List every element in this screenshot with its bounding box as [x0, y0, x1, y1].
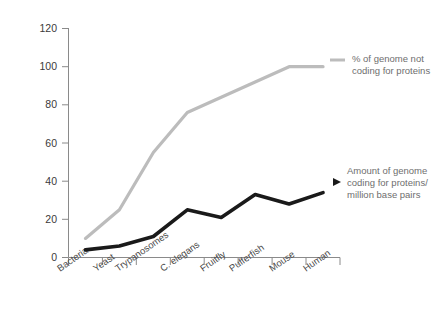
y-axis-label-40: 40: [45, 175, 57, 187]
chart-svg: 120 100 80 60 40 20 0 Bacteria Yeast Try…: [0, 0, 439, 320]
x-axis-label-c-elegans: C. elegans: [158, 238, 202, 273]
x-axis-label-mouse: Mouse: [267, 248, 297, 273]
y-axis-label-0: 0: [51, 251, 57, 263]
black-annotation-line-3: million base pairs: [347, 189, 421, 200]
series-line-coding-genome: [85, 193, 323, 250]
x-axis-label-human: Human: [301, 247, 332, 274]
black-annotation-arrow-icon: [333, 178, 341, 186]
gray-annotation-line-1: % of genome not: [352, 53, 424, 64]
y-axis-label-120: 120: [39, 22, 57, 34]
black-annotation-line-2: coding for proteins/: [347, 177, 428, 188]
genome-coding-line-chart: 120 100 80 60 40 20 0 Bacteria Yeast Try…: [0, 0, 439, 320]
y-axis-label-100: 100: [39, 60, 57, 72]
black-annotation-line-1: Amount of genome: [347, 165, 427, 176]
y-axis-label-20: 20: [45, 213, 57, 225]
gray-annotation-line-2: coding for proteins: [352, 65, 430, 76]
x-axis-label-fruitfly: Fruitfly: [198, 248, 228, 274]
x-axis-label-yeast: Yeast: [91, 251, 117, 274]
y-axis-label-80: 80: [45, 98, 57, 110]
y-axis-label-60: 60: [45, 137, 57, 149]
